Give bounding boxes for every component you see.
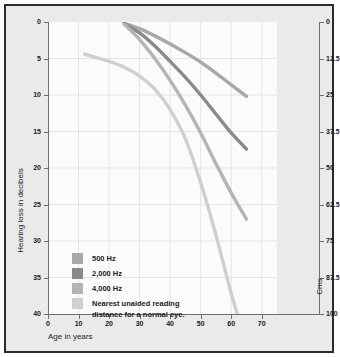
- secondary-y-tick: [320, 205, 324, 206]
- x-tick: [201, 315, 202, 319]
- x-tick-label: 50: [189, 320, 213, 327]
- secondary-y-tick: [320, 95, 324, 96]
- secondary-y-tick: [320, 168, 324, 169]
- y-tick-label: 15: [19, 128, 41, 135]
- secondary-y-tick-label: 75: [326, 237, 334, 244]
- x-axis-label: Age in years: [48, 332, 92, 341]
- legend-label: 500 Hz: [92, 253, 116, 264]
- y-tick: [44, 59, 48, 60]
- secondary-y-tick-label: 87.5: [326, 274, 340, 281]
- secondary-y-tick: [320, 59, 324, 60]
- y-tick-label: 10: [19, 91, 41, 98]
- legend-swatch: [72, 298, 83, 309]
- y-tick: [44, 168, 48, 169]
- x-tick: [48, 315, 49, 319]
- secondary-y-tick-label: 50: [326, 164, 334, 171]
- legend-item: Nearest unaided reading distance for a n…: [72, 298, 185, 319]
- y-tick: [44, 95, 48, 96]
- y-axis-label: Hearing loss in decibels: [16, 141, 25, 281]
- x-tick-label: 0: [36, 320, 60, 327]
- x-tick-label: 60: [219, 320, 243, 327]
- secondary-y-tick-label: 100: [326, 310, 338, 317]
- secondary-y-tick: [320, 132, 324, 133]
- legend-label: Nearest unaided reading distance for a n…: [92, 298, 185, 319]
- y-tick-label: 5: [19, 55, 41, 62]
- x-tick: [231, 315, 232, 319]
- y-tick: [44, 278, 48, 279]
- legend-swatch: [72, 268, 83, 279]
- secondary-y-tick-label: 37.5: [326, 128, 340, 135]
- y-tick: [44, 241, 48, 242]
- legend-item: 2,000 Hz: [72, 268, 185, 279]
- y-tick: [44, 22, 48, 23]
- legend-item: 4,000 Hz: [72, 283, 185, 294]
- chart-inner-background: 0510152025303540 012.52537.55062.57587.5…: [6, 6, 332, 351]
- secondary-y-tick: [320, 241, 324, 242]
- y-axis-line: [48, 22, 49, 315]
- secondary-y-tick-label: 12.5: [326, 55, 340, 62]
- secondary-y-tick-label: 62.5: [326, 201, 340, 208]
- secondary-y-tick-label: 0: [326, 18, 330, 25]
- chart-legend: 500 Hz2,000 Hz4,000 HzNearest unaided re…: [72, 253, 185, 324]
- legend-label: 2,000 Hz: [92, 268, 122, 279]
- legend-swatch: [72, 253, 83, 264]
- secondary-y-tick: [320, 22, 324, 23]
- y-tick: [44, 132, 48, 133]
- y-tick: [44, 205, 48, 206]
- legend-swatch: [72, 283, 83, 294]
- secondary-y-tick-label: 25: [326, 91, 334, 98]
- x-tick-label: 70: [250, 320, 274, 327]
- legend-item: 500 Hz: [72, 253, 185, 264]
- y-tick-label: 40: [19, 310, 41, 317]
- x-tick: [262, 315, 263, 319]
- y-tick-label: 0: [19, 18, 41, 25]
- secondary-y-axis-label: Cms: [315, 257, 324, 317]
- chart-frame: 0510152025303540 012.52537.55062.57587.5…: [4, 4, 334, 353]
- legend-label: 4,000 Hz: [92, 283, 122, 294]
